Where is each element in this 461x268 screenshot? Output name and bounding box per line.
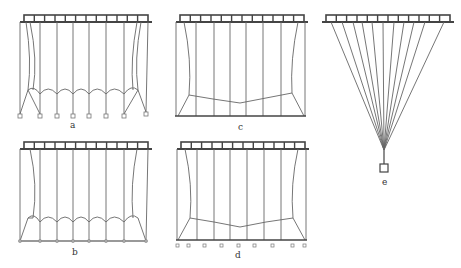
panel-b — [18, 142, 152, 243]
label-e: e — [382, 177, 387, 187]
figure-canvas: a b c — [0, 0, 461, 268]
panel-e — [322, 15, 454, 172]
label-a: a — [70, 120, 76, 130]
label-c: c — [238, 122, 243, 132]
panel-a — [18, 15, 152, 118]
label-d: d — [235, 250, 241, 260]
panel-d — [176, 142, 309, 247]
panel-c — [175, 15, 308, 116]
label-b: b — [72, 247, 78, 257]
